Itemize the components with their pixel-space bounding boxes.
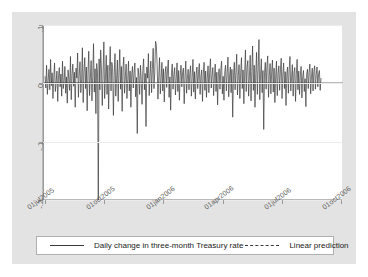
x-tick-mark-0 [45,200,46,204]
legend-label-prediction: Linear prediction [289,241,348,250]
chart-figure: .1 0 -.1 -.2 01jul2005 01oct2005 01jan20… [12,12,356,264]
gridline-y-3 [43,200,343,201]
plot-wrapper: .1 0 -.1 -.2 01jul2005 01oct2005 01jan20… [42,25,342,200]
x-tick-mark-3 [223,200,224,204]
legend-key-solid-line-icon [50,245,84,246]
x-tick-mark-5 [341,200,342,204]
x-tick-mark-2 [163,200,164,204]
chart-legend: Daily change in three-month Treasury rat… [36,236,334,255]
gridline-y-2 [43,142,343,143]
gridline-y-1 [43,83,343,84]
legend-entry-series: Daily change in three-month Treasury rat… [37,241,243,250]
y-tick-label-2: -.1 [36,142,45,182]
y-tick-label-1: 0 [36,84,45,124]
x-tick-mark-1 [104,200,105,204]
y-tick-label-0: .1 [36,26,45,66]
x-tick-mark-4 [282,200,283,204]
series-canvas [43,25,343,200]
gridline-y-0 [43,25,343,26]
legend-key-dashed-line-icon [245,245,279,246]
plot-area [42,25,342,200]
legend-label-series: Daily change in three-month Treasury rat… [94,241,243,250]
series-line-daily-change [45,40,321,200]
legend-entry-prediction: Linear prediction [243,241,348,250]
